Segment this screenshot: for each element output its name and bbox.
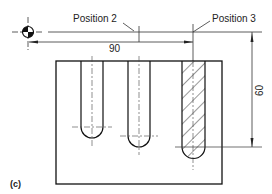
position-2-leader [123, 23, 139, 42]
figure-label: (c) [10, 180, 21, 189]
datum-origin-icon [12, 17, 44, 50]
dimension-60-label: 60 [255, 85, 265, 96]
position-3-leader [193, 21, 210, 61]
slot-2 [120, 56, 158, 155]
technical-drawing [0, 0, 272, 194]
position-3-label: Position 3 [212, 14, 256, 24]
slot-3-hatched [170, 55, 262, 170]
position-2-label: Position 2 [73, 14, 117, 24]
dimension-90-label: 90 [109, 44, 120, 54]
slot-1 [72, 56, 112, 146]
